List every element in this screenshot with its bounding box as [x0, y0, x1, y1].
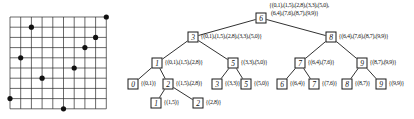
tree-node-n9a: 9: [357, 58, 368, 69]
tree-node-l3: 3: [212, 79, 223, 90]
tree-node-label-n7: {(6,4),(7,6)}: [308, 59, 335, 67]
tree-node-m1: 1: [151, 98, 162, 109]
tree-node-label-l8: {(8,7)}: [355, 80, 371, 88]
tree-node-l7: 7: [309, 79, 320, 90]
grid-point-6-4: [72, 65, 77, 70]
tree-node-label-n3: {(0,1),(1,5),(2,8),(3,3),(5,0)}: [201, 33, 263, 41]
tree-node-label-n1: {(0,1),(1,5),(2,8)}: [165, 59, 204, 67]
tree-node-label-l9: {(9,9)}: [389, 80, 405, 88]
tree-node-r6: 6: [256, 13, 267, 24]
tree-node-label-n8: {(6,4),(7,6),(8,7),(9,9)}: [339, 33, 389, 41]
tree-node-label-line: {(7,6)}: [322, 80, 338, 88]
tree-node-label-line: {(0,1),(1,5),(2,8)}: [165, 59, 204, 67]
tree-node-label-line: {(3,3),(5,0)}: [241, 59, 268, 67]
tree-node-n2: 2: [163, 79, 174, 90]
tree-node-l9: 9: [376, 79, 387, 90]
tree-node-m2: 2: [193, 98, 204, 109]
tree-node-label-line: {(6,4)}: [290, 80, 306, 88]
range-tree-figure: 6{(0,1),(1,5),(2,8),(3,3),(5,0),(6,4),(7…: [0, 0, 414, 119]
tree-node-label-line: (6,4),(7,6),(8,7),(9,9)}: [269, 10, 329, 18]
tree-node-n5a: 5: [228, 58, 239, 69]
tree-node-n3: 3: [188, 32, 199, 43]
tree-node-label-line: {(6,4),(7,6),(8,7),(9,9)}: [339, 33, 389, 41]
grid-point-1-5: [18, 55, 23, 60]
tree-node-n7: 7: [295, 58, 306, 69]
tree-node-label-line: {(2,8)}: [206, 99, 222, 107]
tree-node-l5: 5: [241, 79, 252, 90]
tree-node-label-m2: {(2,8)}: [206, 99, 222, 107]
tree-node-label-m1: {(1,5)}: [164, 99, 180, 107]
tree-node-label-line: {(0,1),(1,5),(2,8),(3,3),(5,0)}: [201, 33, 263, 41]
tree-node-l0: 0: [128, 79, 139, 90]
tree-node-label-line: {(1,5),(2,8)}: [176, 80, 203, 88]
tree-node-label-line: {(1,5)}: [164, 99, 180, 107]
tree-node-label-l7: {(7,6)}: [322, 80, 338, 88]
tree-node-l8: 8: [342, 79, 353, 90]
tree-node-label-n2: {(1,5),(2,8)}: [176, 80, 203, 88]
tree-node-label-line: {(6,4),(7,6)}: [308, 59, 335, 67]
tree-node-label-line: {(8,7)}: [355, 80, 371, 88]
grid-data-points: [7, 14, 109, 111]
grid-point-9-9: [104, 14, 109, 19]
tree-node-label-line: {(9,9)}: [389, 80, 405, 88]
tree-node-label-l5: {(5,0)}: [254, 80, 270, 88]
grid-point-7-6: [82, 45, 87, 50]
grid-point-2-8: [29, 25, 34, 30]
tree-node-label-line: {(0,1)}: [141, 80, 157, 88]
tree-node-label-n9a: {(8,7),(9,9)}: [370, 59, 397, 67]
tree-node-label-n5a: {(3,3),(5,0)}: [241, 59, 268, 67]
tree-node-label-line: {(5,0)}: [254, 80, 270, 88]
point-grid: [10, 17, 106, 109]
tree-node-n1: 1: [152, 58, 163, 69]
tree-node-label-r6: {(0,1),(1,5),(2,8),(3,3),(5,0),(6,4),(7,…: [269, 2, 329, 17]
grid-point-5-0: [61, 106, 66, 111]
grid-point-8-7: [93, 35, 98, 40]
tree-node-n8: 8: [326, 32, 337, 43]
tree-node-label-l0: {(0,1)}: [141, 80, 157, 88]
tree-node-label-l3: {(3,3)}: [225, 80, 241, 88]
tree-node-label-line: {(3,3)}: [225, 80, 241, 88]
grid-point-3-3: [40, 76, 45, 81]
tree-node-l6: 6: [277, 79, 288, 90]
tree-node-label-line: {(8,7),(9,9)}: [370, 59, 397, 67]
tree-node-label-line: {(0,1),(1,5),(2,8),(3,3),(5,0),: [269, 2, 329, 10]
tree-node-label-l6: {(6,4)}: [290, 80, 306, 88]
grid-point-0-1: [7, 96, 12, 101]
